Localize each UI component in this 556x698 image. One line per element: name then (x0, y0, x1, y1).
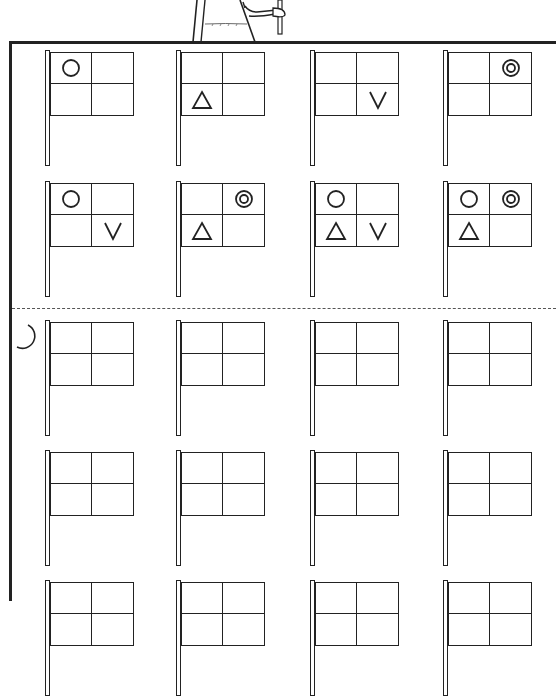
flag-cell[interactable] (357, 215, 398, 246)
flag-cell[interactable] (92, 184, 133, 215)
flag-cell[interactable] (449, 354, 490, 385)
flag-card (176, 320, 268, 438)
flag-cloth (181, 322, 265, 386)
flag-cell[interactable] (223, 184, 264, 215)
flag-cell[interactable] (490, 215, 531, 246)
flag-cell[interactable] (316, 215, 357, 246)
flag-cell[interactable] (357, 614, 398, 645)
flag-cloth (448, 52, 532, 116)
flag-cell[interactable] (490, 453, 531, 484)
flag-cell[interactable] (182, 53, 223, 84)
flag-cell[interactable] (449, 215, 490, 246)
flag-cell[interactable] (182, 184, 223, 215)
flag-cell[interactable] (490, 323, 531, 354)
flag-cell[interactable] (223, 84, 264, 115)
flag-cell[interactable] (92, 583, 133, 614)
flag-cell[interactable] (357, 453, 398, 484)
flag-cell[interactable] (182, 215, 223, 246)
flag-cell[interactable] (182, 84, 223, 115)
flag-cell[interactable] (51, 354, 92, 385)
flag-cell[interactable] (223, 53, 264, 84)
flag-cell[interactable] (92, 614, 133, 645)
flag-cell[interactable] (223, 354, 264, 385)
flag-cell[interactable] (490, 484, 531, 515)
flag-cell[interactable] (92, 354, 133, 385)
flag-cell[interactable] (51, 84, 92, 115)
flag-cell[interactable] (182, 354, 223, 385)
flag-card (45, 580, 137, 698)
flag-cloth (181, 52, 265, 116)
flag-cell[interactable] (92, 323, 133, 354)
flag-card (443, 50, 535, 168)
flag-cloth (50, 52, 134, 116)
flag-cell[interactable] (182, 614, 223, 645)
flag-cell[interactable] (357, 53, 398, 84)
flag-cell[interactable] (51, 215, 92, 246)
flag-cloth (50, 452, 134, 516)
flag-cell[interactable] (223, 583, 264, 614)
flag-cell[interactable] (490, 53, 531, 84)
flag-cell[interactable] (449, 84, 490, 115)
flag-cell[interactable] (357, 354, 398, 385)
flag-card (45, 320, 137, 438)
flag-cell[interactable] (223, 453, 264, 484)
flag-cell[interactable] (316, 583, 357, 614)
flag-cell[interactable] (449, 184, 490, 215)
flag-cloth (315, 452, 399, 516)
flag-cloth (315, 52, 399, 116)
flag-cell[interactable] (182, 323, 223, 354)
flag-cell[interactable] (92, 453, 133, 484)
flag-cell[interactable] (51, 583, 92, 614)
flag-cell[interactable] (92, 215, 133, 246)
flag-cell[interactable] (316, 184, 357, 215)
flag-cell[interactable] (316, 84, 357, 115)
flag-cell[interactable] (449, 614, 490, 645)
flag-card (310, 450, 402, 568)
flag-cell[interactable] (92, 84, 133, 115)
flag-cell[interactable] (182, 453, 223, 484)
flag-cell[interactable] (51, 184, 92, 215)
flag-cell[interactable] (51, 484, 92, 515)
flag-cell[interactable] (357, 583, 398, 614)
flag-cell[interactable] (449, 453, 490, 484)
flag-card (176, 50, 268, 168)
flag-card (310, 50, 402, 168)
flag-cell[interactable] (490, 614, 531, 645)
flag-cell[interactable] (357, 84, 398, 115)
flag-cell[interactable] (223, 215, 264, 246)
flag-cell[interactable] (357, 484, 398, 515)
flag-cell[interactable] (449, 323, 490, 354)
flag-cell[interactable] (449, 583, 490, 614)
flag-cell[interactable] (490, 84, 531, 115)
flag-cell[interactable] (357, 323, 398, 354)
flag-cell[interactable] (223, 484, 264, 515)
flag-cell[interactable] (182, 583, 223, 614)
flag-cell[interactable] (51, 53, 92, 84)
flag-cell[interactable] (316, 323, 357, 354)
flag-cell[interactable] (316, 53, 357, 84)
flag-cell[interactable] (316, 354, 357, 385)
flag-cell[interactable] (92, 53, 133, 84)
flag-card (176, 450, 268, 568)
flag-card (310, 580, 402, 698)
flag-cell[interactable] (316, 484, 357, 515)
flag-cell[interactable] (223, 614, 264, 645)
flag-cell[interactable] (316, 614, 357, 645)
flag-cell[interactable] (51, 453, 92, 484)
flag-cell[interactable] (182, 484, 223, 515)
flag-cell[interactable] (223, 323, 264, 354)
flag-cell[interactable] (51, 614, 92, 645)
flag-card (176, 580, 268, 698)
crescent-moon-icon (14, 323, 38, 353)
flag-cell[interactable] (490, 583, 531, 614)
flag-cell[interactable] (316, 453, 357, 484)
flag-cloth (448, 183, 532, 247)
flag-cell[interactable] (51, 323, 92, 354)
flag-cell[interactable] (92, 484, 133, 515)
flag-cell[interactable] (490, 354, 531, 385)
flag-cloth (50, 582, 134, 646)
flag-cell[interactable] (490, 184, 531, 215)
flag-cell[interactable] (449, 53, 490, 84)
flag-cell[interactable] (449, 484, 490, 515)
flag-cell[interactable] (357, 184, 398, 215)
